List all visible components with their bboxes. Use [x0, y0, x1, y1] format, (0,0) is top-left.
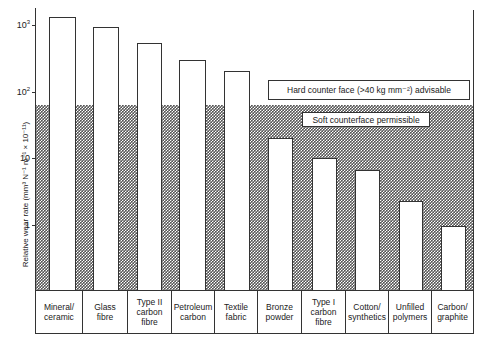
bar-4: [224, 71, 250, 290]
bar-3: [179, 60, 206, 290]
y-tick: [32, 225, 36, 226]
right-frame-line: [473, 10, 474, 333]
y-tick: [32, 92, 36, 93]
bar-1: [93, 27, 119, 290]
category-label: Mineral/ ceramic: [35, 291, 83, 333]
bar-6: [312, 158, 337, 290]
y-tick: [32, 158, 36, 159]
bar-8: [399, 201, 423, 290]
y-axis-line: [35, 8, 36, 333]
bar-5: [268, 138, 293, 290]
y-axis-label: Relative wear rate (mm³ N⁻¹ m⁻¹ × 10⁻¹¹): [21, 100, 30, 290]
category-label: Bronze powder: [258, 291, 302, 333]
soft-counterface-annotation: Soft counterface permissible: [302, 112, 430, 127]
category-label: Petroleum carbon: [172, 291, 215, 333]
category-label: Carbon/ graphite: [432, 291, 474, 333]
hard-counterface-annotation: Hard counter face (>40 kg mm⁻²) advisabl…: [268, 80, 470, 100]
bar-0: [49, 17, 76, 290]
category-label: Glass fibre: [83, 291, 128, 333]
category-label: Type II carbon fibre: [128, 291, 172, 333]
y-tick-label: 103: [4, 19, 30, 30]
y-tick-label: 102: [4, 86, 30, 97]
bar-2: [137, 43, 162, 290]
category-row-bottom-line: [35, 333, 474, 334]
y-tick: [32, 25, 36, 26]
bar-7: [355, 170, 380, 290]
category-label: Unfilled polymers: [389, 291, 432, 333]
bar-9: [441, 226, 466, 290]
category-label: Cotton/ synthetics: [346, 291, 389, 333]
category-label: Textile fabric: [215, 291, 258, 333]
category-label: Type I carbon fibre: [302, 291, 346, 333]
